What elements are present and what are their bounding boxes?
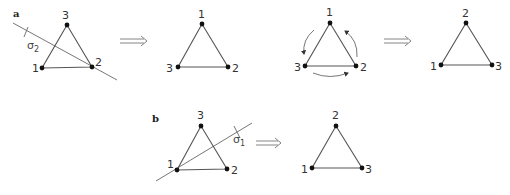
vertex-label: 3	[365, 163, 372, 176]
triangle-a2: 1 3 2	[166, 8, 239, 75]
vertex-label: 3	[495, 60, 502, 73]
vertex-right	[226, 65, 231, 70]
vertex-left	[40, 66, 45, 71]
vertex-top	[199, 124, 204, 129]
vertex-right	[225, 167, 230, 172]
plane-tick-mark	[24, 27, 28, 37]
panel-label-a: a	[13, 8, 20, 19]
vertex-label: 3	[62, 9, 69, 22]
rotation-arrow-icon	[345, 31, 357, 57]
sigma1-label: σ1	[233, 133, 245, 148]
vertex-left	[303, 64, 308, 69]
vertex-right	[354, 64, 359, 69]
triangle-a4: 2 1 3	[430, 7, 502, 73]
implies-arrow-icon	[384, 36, 411, 46]
vertex-label: 2	[231, 164, 238, 177]
vertex-right	[360, 166, 365, 171]
vertex-label: 2	[332, 109, 339, 122]
rotation-arrow-icon	[313, 73, 348, 77]
sigma2-label: σ2	[27, 39, 39, 54]
vertex-left	[176, 65, 181, 70]
triangle-a1: σ2 3 1 2	[13, 9, 117, 80]
vertex-label: 1	[326, 6, 333, 19]
vertex-label: 2	[360, 61, 367, 74]
vertex-label: 3	[166, 62, 173, 75]
vertex-top	[464, 21, 469, 26]
vertex-top	[200, 22, 205, 27]
vertex-top	[334, 124, 339, 129]
vertex-top	[65, 23, 70, 28]
vertex-right	[490, 63, 495, 68]
implies-arrow-icon	[256, 138, 281, 148]
vertex-label: 2	[95, 56, 102, 69]
vertex-top	[328, 21, 333, 26]
vertex-label: 2	[462, 7, 469, 20]
triangle-b1: σ1 3 1 2	[156, 109, 252, 181]
vertex-label: 1	[198, 8, 205, 21]
symmetry-diagram: a σ2 3 1 2 1 3 2 1 3 2	[0, 0, 510, 195]
vertex-label: 1	[167, 158, 174, 171]
vertex-label: 1	[32, 62, 39, 75]
triangle-a3: 1 3 2	[294, 6, 367, 77]
vertex-label: 3	[197, 109, 204, 122]
vertex-label: 3	[294, 61, 301, 74]
rotation-arrow-icon	[304, 30, 314, 54]
vertex-left	[439, 63, 444, 68]
vertex-left	[310, 166, 315, 171]
triangle-b2: 2 1 3	[301, 109, 372, 176]
vertex-left	[175, 168, 180, 173]
vertex-label: 2	[232, 62, 239, 75]
panel-label-b: b	[152, 113, 159, 124]
vertex-label: 1	[301, 163, 308, 176]
implies-arrow-icon	[120, 36, 147, 46]
vertex-label: 1	[430, 60, 437, 73]
vertex-right	[90, 65, 95, 70]
